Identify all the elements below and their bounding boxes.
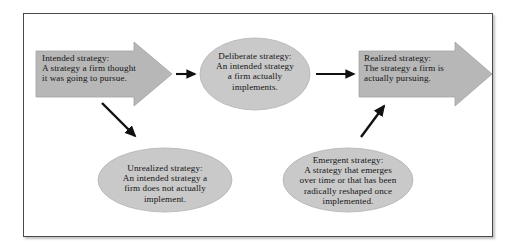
shape-emergent-strategy: [283, 148, 413, 212]
shape-intended-strategy: [36, 42, 172, 106]
connector-emergent-to-realized: [361, 106, 384, 137]
diagram-canvas: Intended strategy: A strategy a firm tho…: [0, 0, 512, 250]
connector-intended-to-unrealized: [102, 103, 135, 136]
shape-unrealized-strategy: [98, 148, 232, 212]
shape-deliberate-strategy: [200, 38, 310, 110]
shape-realized-strategy: [359, 42, 492, 106]
diagram-shapes: [0, 0, 512, 250]
